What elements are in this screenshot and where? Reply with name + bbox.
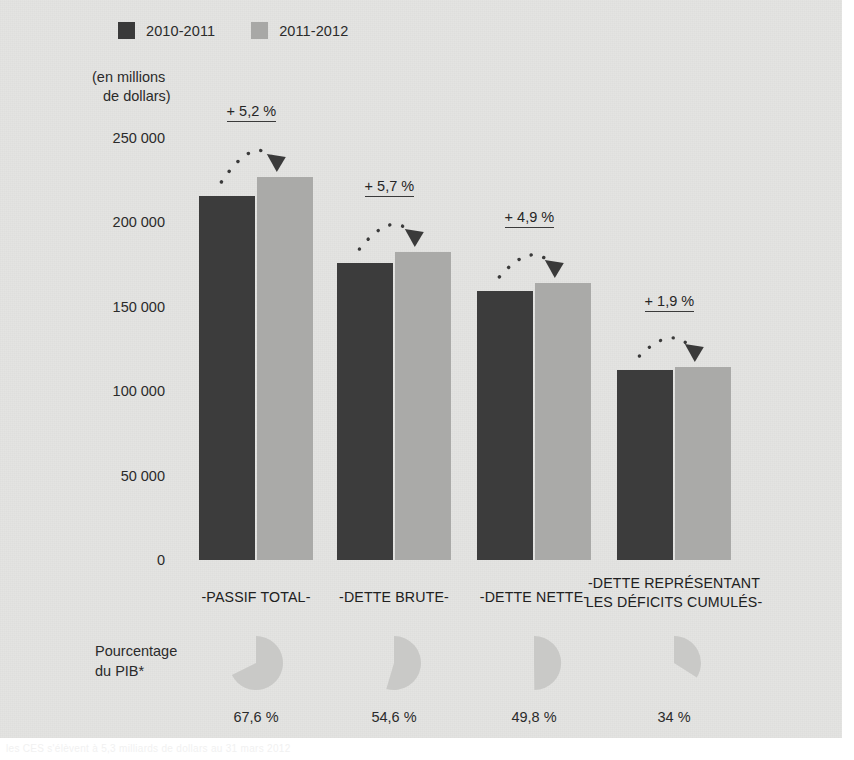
figure-root: 2010-2011 2011-2012 (en millions de doll… (0, 0, 854, 760)
pie-label-2: 49,8 % (474, 709, 594, 725)
pie-row-label: Pourcentage du PIB* (95, 641, 177, 681)
pie-label-0: 67,6 % (196, 709, 316, 725)
pie-row-label-line1: Pourcentage (95, 641, 177, 661)
growth-arrow-3 (0, 0, 842, 738)
plot-area: 050 000100 000150 000200 000250 000-PASS… (0, 0, 842, 738)
pie-label-1: 54,6 % (334, 709, 454, 725)
pie-label-3: 34 % (614, 709, 734, 725)
pie-chart-0 (227, 634, 285, 692)
pie-chart-2 (505, 634, 563, 692)
pie-row-label-line2: du PIB* (95, 661, 177, 681)
pie-chart-3 (645, 634, 703, 692)
footer-ghost-text: les CES s'élèvent à 5,3 milliards de dol… (0, 740, 854, 760)
pie-chart-1 (365, 634, 423, 692)
footer-ghost-label: les CES s'élèvent à 5,3 milliards de dol… (0, 740, 854, 754)
